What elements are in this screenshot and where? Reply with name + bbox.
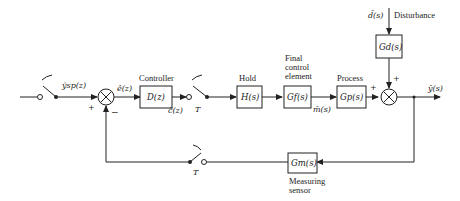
setpoint-label: ŷsp(z) xyxy=(61,81,86,90)
plus-sign: + xyxy=(88,103,95,112)
control-block-diagram: ŷsp(z) + − ê(z) Controller D(z) ĉ(z) T H… xyxy=(0,0,460,201)
sampling-period-label: T xyxy=(195,105,201,114)
manipulated-label: m̄(s) xyxy=(313,105,331,114)
final-control-label-3: element xyxy=(285,71,313,81)
sampler-switch xyxy=(187,75,210,100)
comparator-summing-junction xyxy=(98,89,114,105)
process-label: Process xyxy=(337,73,363,83)
sensor-tf: Gm(s) xyxy=(291,158,317,168)
hold-tf: H(s) xyxy=(240,92,259,102)
sensor-label-2: sensor xyxy=(289,185,311,195)
feedback-sampling-period-label: T xyxy=(193,168,199,177)
disturbance-label: Disturbance xyxy=(394,10,435,20)
final-control-tf: Gf(s) xyxy=(287,92,308,102)
controller-label: Controller xyxy=(139,73,174,83)
controller-tf: D(z) xyxy=(146,92,165,102)
plus-sign-disturbance: + xyxy=(393,74,400,83)
disturbance-tf: Gd(s) xyxy=(379,42,402,52)
feedback-sampler-switch xyxy=(188,145,207,165)
output-label: ȳ(s) xyxy=(427,84,443,93)
plus-sign-process: + xyxy=(370,83,377,92)
hold-label: Hold xyxy=(239,73,257,83)
output-summing-junction xyxy=(381,89,397,105)
controller-output-label: ĉ(z) xyxy=(168,106,183,115)
error-label: ê(z) xyxy=(117,84,132,93)
minus-sign: − xyxy=(111,107,119,117)
input-sampler-switch xyxy=(20,75,58,100)
disturbance-signal-label: d̄(s) xyxy=(368,10,383,20)
process-tf: Gp(s) xyxy=(340,92,363,102)
